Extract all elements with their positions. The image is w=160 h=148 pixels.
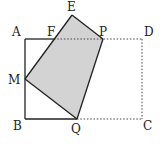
label-c: C xyxy=(143,119,152,133)
label-f: F xyxy=(47,25,55,39)
label-a: A xyxy=(11,25,21,39)
label-b: B xyxy=(13,119,22,133)
geometry-diagram: E A F P D M B Q C xyxy=(0,0,160,148)
label-q: Q xyxy=(71,122,81,136)
label-e: E xyxy=(67,0,76,14)
label-p: P xyxy=(99,25,107,39)
label-m: M xyxy=(8,73,20,87)
label-d: D xyxy=(144,25,154,39)
